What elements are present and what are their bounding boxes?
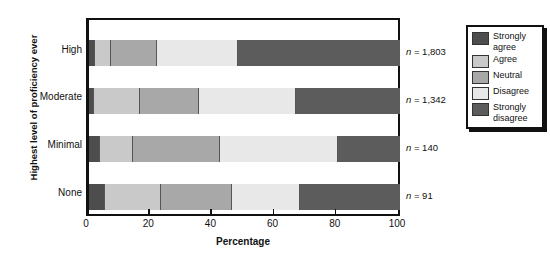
category-label-group: High Moderate Minimal None (0, 0, 82, 265)
segment-agree (100, 136, 133, 162)
legend-swatch-icon (472, 55, 489, 68)
segment-strongly-disagree (338, 136, 400, 162)
segment-agree (94, 88, 141, 114)
chart-root: Highest level of proficiency ever High M… (0, 0, 550, 265)
x-tick-label-100: 100 (389, 218, 406, 229)
segment-neutral (111, 40, 158, 66)
x-tick-20 (148, 209, 150, 216)
n-label-high: n = 1,803 (406, 46, 446, 57)
legend-swatch-icon (472, 87, 489, 100)
x-tick-label-0: 0 (83, 218, 89, 229)
legend-swatch-icon (472, 32, 489, 45)
segment-strongly-disagree (238, 40, 400, 66)
x-tick-label-20: 20 (143, 218, 154, 229)
segment-disagree (199, 88, 295, 114)
plot-area (86, 18, 400, 216)
bar-high (89, 40, 400, 66)
segment-strongly-agree (89, 136, 100, 162)
category-label-high: High (8, 44, 82, 56)
segment-strongly-disagree (300, 184, 400, 210)
legend-item-neutral[interactable]: Neutral (472, 70, 539, 84)
category-label-moderate: Moderate (8, 91, 82, 103)
bar-moderate (89, 88, 400, 114)
n-label-none: n = 91 (406, 190, 433, 201)
x-tick-60 (273, 209, 275, 216)
x-axis-title: Percentage (86, 236, 400, 247)
n-label-moderate: n = 1,342 (406, 94, 446, 105)
legend-item-strongly-disagree[interactable]: Strongly disagree (472, 102, 539, 123)
bar-none (89, 184, 400, 210)
legend-swatch-icon (472, 71, 489, 84)
bar-minimal (89, 136, 400, 162)
legend-item-label: Agree (493, 54, 517, 65)
legend: Strongly agreeAgreeNeutralDisagreeStrong… (466, 25, 544, 129)
legend-item-label: Neutral (493, 70, 522, 81)
x-tick-label-60: 60 (267, 218, 278, 229)
x-tick-80 (335, 209, 337, 216)
segment-agree (105, 184, 161, 210)
segment-disagree (157, 40, 238, 66)
segment-strongly-agree (89, 184, 105, 210)
category-label-minimal: Minimal (8, 139, 82, 151)
legend-item-disagree[interactable]: Disagree (472, 86, 539, 100)
n-label-minimal: n = 140 (406, 142, 438, 153)
legend-item-label: Disagree (493, 86, 529, 97)
segment-agree (95, 40, 111, 66)
legend-swatch-icon (472, 103, 489, 116)
legend-item-agree[interactable]: Agree (472, 54, 539, 68)
segment-disagree (232, 184, 300, 210)
segment-neutral (161, 184, 233, 210)
legend-item-label: Strongly disagree (493, 102, 539, 123)
segment-disagree (220, 136, 338, 162)
category-label-none: None (8, 187, 82, 199)
x-tick-label-80: 80 (329, 218, 340, 229)
segment-neutral (133, 136, 220, 162)
x-tick-40 (210, 209, 212, 216)
x-tick-label-40: 40 (205, 218, 216, 229)
segment-neutral (140, 88, 199, 114)
legend-item-strongly-agree[interactable]: Strongly agree (472, 31, 539, 52)
segment-strongly-disagree (296, 88, 400, 114)
legend-item-label: Strongly agree (493, 31, 539, 52)
